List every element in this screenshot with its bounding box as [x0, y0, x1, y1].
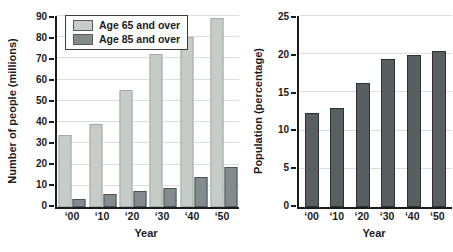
bar-group	[381, 16, 395, 207]
x-tick-label: ‘40	[405, 211, 420, 222]
x-tick-label: ‘50	[215, 211, 230, 222]
figure-canvas: Number of people (millions) Age 65 and o…	[0, 0, 453, 252]
gridline	[299, 15, 452, 16]
y-tick-label: 10	[263, 125, 289, 135]
bar-group	[305, 16, 319, 207]
x-tick-label: ‘00	[304, 211, 319, 222]
bar-people-millions-series1	[164, 188, 177, 207]
y-tick-mark	[291, 16, 296, 18]
x-tick-label: ‘30	[380, 211, 395, 222]
y-tick-mark	[49, 163, 54, 165]
right-plot-area	[297, 16, 452, 209]
y-tick-mark	[291, 205, 296, 207]
bar-people-millions-series1	[194, 177, 207, 207]
y-tick-label: 50	[21, 96, 47, 106]
gridline	[299, 91, 452, 92]
x-tick-label: ‘40	[185, 211, 200, 222]
y-tick-mark	[291, 54, 296, 56]
bar-people-millions-series0	[210, 18, 223, 207]
bar-people-millions-series0	[180, 37, 193, 207]
bar-people-millions-series0	[59, 135, 72, 207]
bar-people-millions-series1	[73, 199, 86, 207]
y-tick-label: 40	[21, 117, 47, 127]
right-x-axis-title: Year	[324, 227, 424, 239]
gridline	[299, 53, 452, 54]
x-tick-label: ‘20	[125, 211, 140, 222]
y-tick-label: 60	[21, 75, 47, 85]
y-tick-label: 90	[21, 12, 47, 22]
right-y-axis-title: Population (percentage)	[252, 11, 264, 211]
x-tick-label: ‘00	[65, 211, 80, 222]
y-tick-label: 0	[21, 201, 47, 211]
y-tick-label: 70	[21, 54, 47, 64]
y-tick-mark	[291, 92, 296, 94]
y-tick-label: 30	[21, 138, 47, 148]
y-tick-mark	[49, 100, 54, 102]
bar-population-percentage-series0	[305, 113, 319, 207]
left-y-axis-title: Number of people (millions)	[6, 11, 18, 211]
left-legend: Age 65 and overAge 85 and over	[65, 15, 188, 50]
gridline	[299, 130, 452, 131]
bar-people-millions-series0	[119, 90, 132, 207]
y-tick-label: 80	[21, 33, 47, 43]
bar-people-millions-series1	[224, 167, 237, 207]
y-tick-label: 25	[263, 12, 289, 22]
x-tick-label: ‘30	[155, 211, 170, 222]
y-tick-mark	[49, 16, 54, 18]
bar-group	[330, 16, 344, 207]
y-tick-mark	[49, 205, 54, 207]
x-tick-label: ‘10	[95, 211, 110, 222]
bar-population-percentage-series0	[356, 83, 370, 207]
legend-label: Age 85 and over	[99, 34, 180, 45]
legend-item: Age 85 and over	[73, 34, 180, 45]
legend-label: Age 65 and over	[99, 20, 180, 31]
bar-population-percentage-series0	[381, 59, 395, 207]
y-tick-label: 15	[263, 88, 289, 98]
y-tick-mark	[49, 184, 54, 186]
y-tick-mark	[49, 58, 54, 60]
y-tick-mark	[291, 167, 296, 169]
y-tick-label: 0	[263, 201, 289, 211]
y-tick-mark	[291, 129, 296, 131]
y-tick-mark	[49, 121, 54, 123]
x-tick-label: ‘20	[355, 211, 370, 222]
bar-group	[407, 16, 421, 207]
x-tick-label: ‘10	[329, 211, 344, 222]
bar-group	[432, 16, 446, 207]
bar-population-percentage-series0	[330, 108, 344, 207]
bar-people-millions-series0	[89, 124, 102, 207]
bar-people-millions-series1	[133, 191, 146, 207]
y-tick-label: 20	[263, 50, 289, 60]
y-tick-mark	[49, 142, 54, 144]
gridline	[299, 168, 452, 169]
y-tick-mark	[49, 37, 54, 39]
left-x-axis-title: Year	[96, 227, 196, 239]
bar-people-millions-series1	[103, 194, 116, 207]
x-tick-label: ‘50	[430, 211, 445, 222]
y-tick-mark	[49, 79, 54, 81]
y-tick-label: 20	[21, 159, 47, 169]
legend-swatch-icon	[73, 20, 93, 31]
bar-people-millions-series0	[150, 54, 163, 207]
bar-group	[210, 16, 237, 207]
y-tick-label: 5	[263, 163, 289, 173]
legend-swatch-icon	[73, 34, 93, 45]
legend-item: Age 65 and over	[73, 20, 180, 31]
bar-group	[356, 16, 370, 207]
y-tick-label: 10	[21, 180, 47, 190]
bar-population-percentage-series0	[432, 51, 446, 207]
bar-population-percentage-series0	[407, 55, 421, 207]
